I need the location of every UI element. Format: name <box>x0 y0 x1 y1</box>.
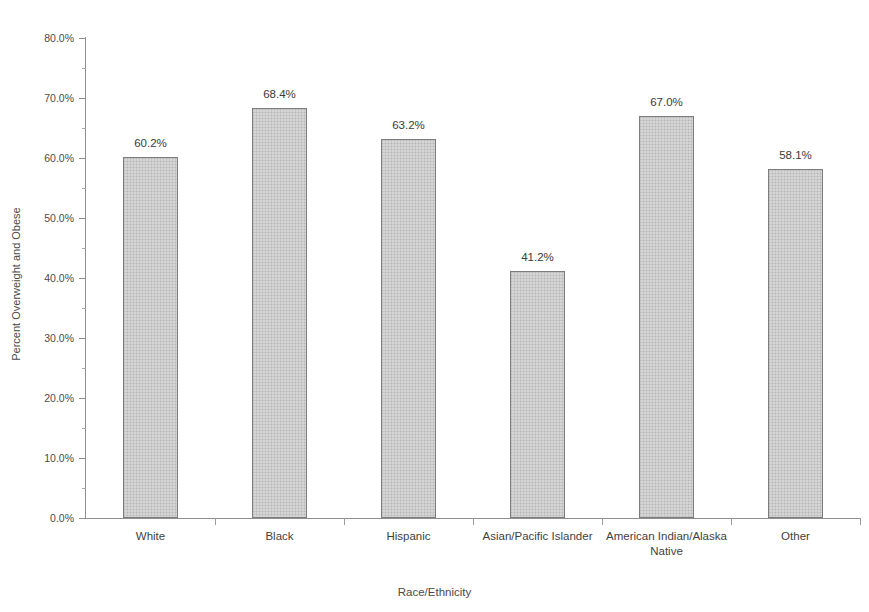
x-axis-title: Race/Ethnicity <box>0 586 869 598</box>
x-axis-tick <box>602 518 603 525</box>
bar <box>510 271 565 518</box>
bar <box>768 169 823 518</box>
x-axis-tick <box>473 518 474 525</box>
y-axis-tick-label: 60.0% <box>14 152 74 164</box>
y-axis-tick <box>79 458 86 459</box>
bar-value-label: 41.2% <box>521 251 554 263</box>
y-axis-tick-label: 0.0% <box>14 512 74 524</box>
y-axis-tick <box>79 278 86 279</box>
x-axis-tick <box>860 518 861 525</box>
bar <box>381 139 436 518</box>
y-axis-title: Percent Overweight and Obese <box>10 184 22 384</box>
bar-value-label: 58.1% <box>779 149 812 161</box>
x-axis-tick <box>731 518 732 525</box>
x-axis-category-label: American Indian/Alaska Native <box>597 529 737 559</box>
y-axis-tick <box>79 338 86 339</box>
bar-value-label: 67.0% <box>650 96 683 108</box>
y-axis-tick <box>79 398 86 399</box>
x-axis-category-label: Black <box>210 529 350 544</box>
y-axis-tick-label: 80.0% <box>14 32 74 44</box>
x-axis-category-label: White <box>81 529 221 544</box>
x-axis-category-label: Hispanic <box>339 529 479 544</box>
x-axis-category-label: Asian/Pacific Islander <box>468 529 608 544</box>
bar <box>639 116 694 518</box>
y-axis-tick-label: 10.0% <box>14 452 74 464</box>
x-axis-tick <box>215 518 216 525</box>
y-axis-tick-label: 70.0% <box>14 92 74 104</box>
bar-value-label: 60.2% <box>134 137 167 149</box>
chart-title-container <box>0 0 869 11</box>
y-axis-tick <box>79 218 86 219</box>
y-axis-tick <box>79 98 86 99</box>
y-axis-tick-label: 40.0% <box>14 272 74 284</box>
bar-value-label: 63.2% <box>392 119 425 131</box>
y-axis-tick <box>79 158 86 159</box>
y-axis-tick-label: 50.0% <box>14 212 74 224</box>
x-axis-category-label: Other <box>726 529 866 544</box>
y-axis-tick <box>79 38 86 39</box>
bar <box>123 157 178 518</box>
y-axis-tick <box>79 518 86 519</box>
plot-area: 60.2%68.4%63.2%41.2%67.0%58.1% <box>86 38 860 518</box>
y-axis-tick-label: 30.0% <box>14 332 74 344</box>
bar <box>252 108 307 518</box>
x-axis-tick <box>344 518 345 525</box>
y-axis-tick-label: 20.0% <box>14 392 74 404</box>
bar-value-label: 68.4% <box>263 88 296 100</box>
